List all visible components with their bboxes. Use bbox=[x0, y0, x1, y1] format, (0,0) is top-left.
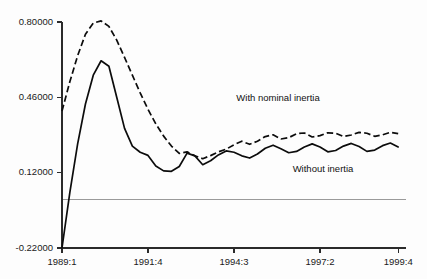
axes-group bbox=[57, 22, 406, 253]
x-axis-tick-labels: 1989:11991:41994:31997:21999:4 bbox=[47, 256, 412, 267]
y-tick-label: -0.22000 bbox=[15, 242, 53, 253]
chart-canvas: 0.800000.460000.12000-0.22000 1989:11991… bbox=[0, 0, 427, 279]
y-tick-label: 0.12000 bbox=[19, 166, 53, 177]
annotation-without-inertia: Without inertia bbox=[293, 163, 354, 174]
x-tick-label: 1999:4 bbox=[384, 256, 413, 267]
y-tick-label: 0.46000 bbox=[19, 91, 53, 102]
y-tick-label: 0.80000 bbox=[19, 16, 53, 27]
x-axis-ticks bbox=[62, 248, 398, 253]
annotation-with-nominal-inertia: With nominal inertia bbox=[236, 92, 320, 103]
x-tick-label: 1989:1 bbox=[47, 256, 76, 267]
x-tick-label: 1997:2 bbox=[305, 256, 334, 267]
x-tick-label: 1991:4 bbox=[133, 256, 162, 267]
series-line-without-inertia bbox=[62, 61, 398, 248]
x-tick-label: 1994:3 bbox=[219, 256, 248, 267]
series-annotations-group: With nominal inertiaWithout inertia bbox=[236, 92, 354, 174]
chart-figure: 0.800000.460000.12000-0.22000 1989:11991… bbox=[0, 0, 427, 279]
y-axis-ticks bbox=[57, 22, 62, 248]
y-axis-tick-labels: 0.800000.460000.12000-0.22000 bbox=[15, 16, 53, 253]
series-line-with-nominal-inertia bbox=[62, 21, 398, 159]
data-series-group bbox=[62, 21, 398, 248]
